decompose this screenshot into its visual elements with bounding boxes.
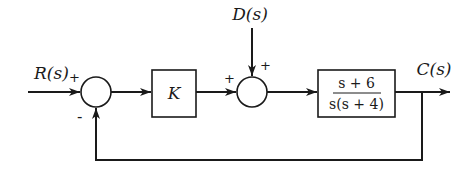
output-label: C(s): [417, 59, 452, 79]
disturbance-label: D(s): [231, 4, 268, 24]
input-label: R(s): [33, 63, 69, 83]
sum2-top-plus-sign: +: [260, 58, 271, 73]
plant-denominator: s(s + 4): [329, 96, 384, 112]
sum1-plus-sign: +: [69, 70, 80, 85]
block-diagram: R(s) + - K + D(s) + s + 6 s(s + 4) C(s): [0, 0, 471, 174]
summing-junction-2: [237, 77, 267, 107]
sum2-left-plus-sign: +: [224, 71, 235, 86]
controller-label: K: [167, 83, 182, 103]
plant-numerator: s + 6: [338, 75, 375, 91]
summing-junction-1: [81, 77, 111, 107]
sum1-minus-sign: -: [77, 108, 82, 126]
